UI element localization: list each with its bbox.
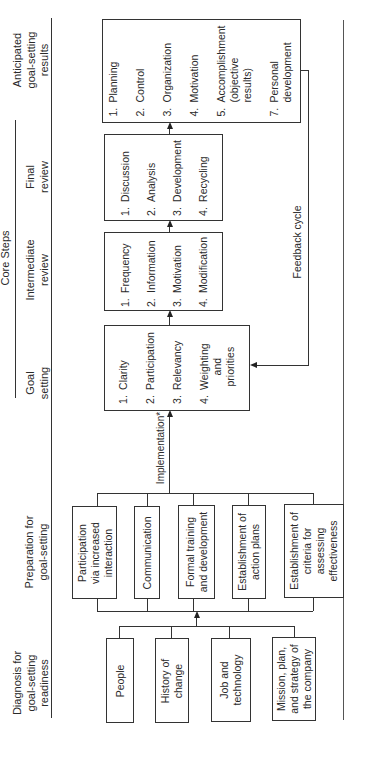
implementation-label: Implementation*	[154, 412, 167, 484]
preparation-box-action-plans: Establishment of action plans	[232, 505, 266, 599]
anticipated-results-box: 1.Planning 2.Control 3.Organization 4.Mo…	[102, 19, 301, 123]
feedback-cycle-label: Feedback cycle	[291, 206, 304, 279]
final-review-box: 1.Discussion 2.Analysis 3.Development 4.…	[104, 134, 223, 221]
prep-tick	[248, 598, 249, 611]
intermediate-review-list: 1.Frequency 2.Information 3.Motivation 4…	[118, 236, 209, 306]
diagnosis-label: People	[114, 664, 127, 697]
final-review-list: 1.Discussion 2.Analysis 3.Development 4.…	[118, 140, 209, 216]
goal-setting-item: 4.Weighting and priorities	[198, 332, 237, 404]
results-item: 3.Organization	[160, 25, 173, 116]
core-steps-bracket-line	[15, 120, 16, 398]
results-item: 7.Personal development	[267, 25, 293, 116]
header-core-steps: Core Steps	[0, 230, 13, 285]
header-goal-setting: Goal setting	[24, 367, 51, 399]
implementation-line	[169, 416, 170, 493]
results-item: 1.Planning	[106, 25, 119, 116]
intermediate-review-box: 1.Frequency 2.Information 3.Motivation 4…	[104, 232, 223, 311]
goal-setting-box: 1.Clarity 2.Participation 3.Relevancy 4.…	[104, 325, 250, 411]
final-review-item: 4.Recycling	[196, 140, 209, 216]
prep-tick	[97, 598, 98, 611]
preparation-box-participation: Participation via increased interaction	[72, 506, 117, 599]
diagnosis-label: Job and technology	[218, 655, 244, 706]
right-border-rule	[343, 20, 344, 720]
results-item: 4.Motivation	[187, 25, 200, 116]
final-review-item: 3.Development	[170, 140, 183, 216]
preparation-label: Establishment of criteria for assessing …	[288, 512, 340, 590]
header-final-review: Final review	[24, 161, 51, 193]
diagnosis-tick-3	[229, 626, 230, 638]
header-diagnosis: Diagnosis for goal-setting readiness	[11, 651, 52, 715]
anticipated-results-list: 1.Planning 2.Control 3.Organization 4.Mo…	[106, 25, 293, 116]
arrow-up-icon	[194, 611, 200, 618]
header-rule	[51, 18, 52, 718]
preparation-label: Formal training and development	[184, 512, 210, 593]
intermediate-review-item: 2.Information	[144, 236, 157, 306]
arrow-left-icon	[250, 362, 257, 368]
header-anticipated-results: Anticipated goal-setting results	[11, 32, 52, 89]
goal-setting-list: 1.Clarity 2.Participation 3.Relevancy 4.…	[117, 332, 237, 404]
diagnosis-box-job: Job and technology	[211, 638, 251, 722]
prep-tick	[97, 493, 98, 506]
preparation-box-training: Formal training and development	[178, 505, 215, 599]
feedback-line-bottom	[256, 365, 309, 366]
final-review-item: 1.Discussion	[118, 140, 131, 216]
preparation-bottom-bar	[97, 611, 313, 612]
header-intermediate-review: Intermediate review	[24, 239, 51, 300]
diagnosis-tick-2	[171, 626, 172, 638]
diagnosis-box-people: People	[106, 638, 134, 723]
diagnosis-box-history: History of change	[155, 638, 189, 723]
prep-tick	[193, 598, 194, 611]
preparation-box-criteria: Establishment of criteria for assessing …	[284, 504, 344, 598]
arrow-up-icon	[167, 410, 173, 417]
preparation-top-bar	[97, 493, 313, 494]
results-item: 5.Accomplishment (objective results)	[214, 25, 253, 116]
final-review-item: 2.Analysis	[144, 140, 157, 216]
results-item: 2.Control	[133, 25, 146, 116]
intermediate-review-item: 1.Frequency	[118, 236, 131, 306]
diagnosis-connector-bar	[119, 626, 295, 627]
diagnosis-label: Mission, plan, and strategy of the compa…	[275, 644, 314, 713]
preparation-label: Communication	[141, 516, 154, 589]
header-preparation: Preparation for goal-setting	[23, 516, 50, 589]
goal-setting-item: 3.Relevancy	[171, 332, 184, 404]
goal-setting-item: 2.Participation	[144, 332, 157, 404]
arrow-up-icon	[167, 220, 173, 227]
preparation-label: Establishment of action plans	[236, 513, 262, 591]
intermediate-review-item: 4.Modification	[196, 236, 209, 306]
feedback-line-top	[300, 70, 308, 71]
feedback-line-vertical	[308, 70, 309, 365]
prep-tick	[147, 598, 148, 611]
intermediate-review-item: 3.Motivation	[170, 236, 183, 306]
arrow-up-icon	[167, 122, 173, 129]
prep-tick	[313, 598, 314, 611]
diagnosis-tick-1	[119, 626, 120, 638]
preparation-box-communication: Communication	[134, 506, 160, 599]
preparation-label: Participation via increased interaction	[75, 522, 114, 584]
arrow-up-icon	[167, 310, 173, 317]
diagnosis-box-mission: Mission, plan, and strategy of the compa…	[272, 637, 316, 721]
prep-tick	[147, 493, 148, 506]
goal-to-intermediate-line	[169, 316, 170, 325]
goal-setting-item: 1.Clarity	[117, 332, 130, 404]
diagnosis-label: History of change	[159, 658, 185, 702]
